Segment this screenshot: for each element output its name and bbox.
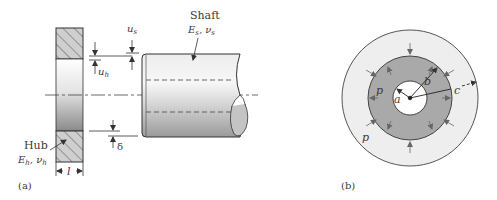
u-s-dimension: us [126, 23, 139, 70]
caption-b: (b) [341, 180, 355, 191]
shaft-label: Shaft Es, νs [187, 9, 220, 60]
panel-b: a b c p p (b) [341, 30, 478, 191]
pressure-inner-label: p [376, 84, 383, 97]
radius-a-label: a [394, 93, 401, 106]
shaft [142, 54, 248, 137]
hub-bottom-section [56, 131, 83, 162]
caption-a: (a) [18, 180, 32, 191]
hub-title: Hub [24, 139, 48, 152]
radius-b-label: b [424, 75, 431, 88]
u-h-label: uh [98, 66, 109, 79]
delta-dimension: δ [89, 120, 138, 152]
figure-canvas: l Shaft Es, νs Hub Eh, νh [0, 0, 497, 200]
panel-a: l Shaft Es, νs Hub Eh, νh [17, 9, 258, 191]
length-label: l [67, 165, 71, 178]
shaft-title: Shaft [190, 9, 220, 22]
hub-top-section [56, 28, 83, 59]
hub-length-dimension: l [56, 162, 83, 178]
u-h-dimension: uh [89, 42, 132, 79]
radius-c-label: c [454, 84, 460, 97]
delta-label: δ [117, 141, 123, 152]
pressure-outer-label: p [362, 131, 369, 144]
u-s-label: us [127, 23, 137, 36]
shaft-properties: Es, νs [187, 24, 215, 37]
hub-properties: Eh, νh [17, 154, 47, 167]
